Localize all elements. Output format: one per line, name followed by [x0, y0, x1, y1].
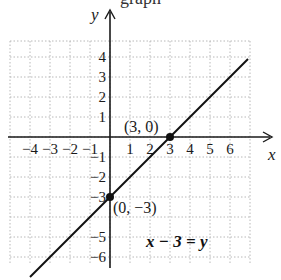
- x-tick-label: 3: [166, 141, 174, 157]
- x-tick-label: −2: [62, 141, 78, 157]
- x-tick-label: 5: [206, 141, 214, 157]
- y-axis-label: y: [89, 5, 99, 24]
- axes: [8, 10, 272, 268]
- y-tick-label: −6: [90, 249, 106, 265]
- point-label-y-intercept: (0, −3): [113, 199, 157, 217]
- plot-line: [30, 59, 248, 277]
- y-tick-labels: 4321−1−2−3−5−6: [90, 49, 106, 265]
- y-tick-label: 4: [99, 49, 107, 65]
- plot-lines: [30, 59, 248, 277]
- y-tick-label: −2: [90, 169, 106, 185]
- x-tick-label: 4: [186, 141, 194, 157]
- y-tick-label: 3: [99, 69, 107, 85]
- y-tick-label: 2: [99, 89, 107, 105]
- x-tick-label: 1: [126, 141, 134, 157]
- data-point: [166, 133, 174, 141]
- y-tick-label: −1: [90, 149, 106, 165]
- x-tick-label: 6: [226, 141, 234, 157]
- x-axis-label: x: [267, 145, 276, 164]
- equation-label: x − 3 = y: [145, 232, 208, 251]
- y-tick-label: 1: [99, 109, 107, 125]
- y-tick-label: −5: [90, 229, 106, 245]
- x-tick-labels: −4−3−2−1123456: [22, 141, 234, 157]
- x-tick-label: −3: [42, 141, 58, 157]
- x-tick-label: −4: [22, 141, 38, 157]
- point-label-x-intercept: (3, 0): [124, 118, 159, 136]
- coordinate-plane: x y −4−3−2−1123456 4321−1−2−3−5−6 (3, 0)…: [0, 0, 281, 280]
